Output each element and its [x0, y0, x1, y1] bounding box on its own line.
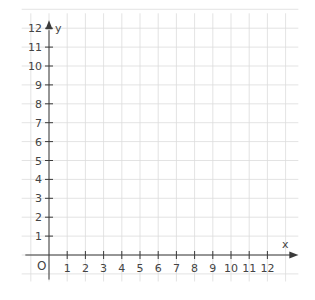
y-tick-label: 2: [35, 211, 42, 224]
x-tick-label: 9: [209, 262, 216, 275]
x-tick-label: 5: [137, 262, 144, 275]
y-tick-label: 9: [35, 79, 42, 92]
y-tick-label: 1: [35, 230, 42, 243]
y-tick-label: 5: [35, 155, 42, 168]
x-tick-label: 11: [242, 262, 256, 275]
y-tick-label: 11: [28, 41, 42, 54]
y-tick-label: 4: [35, 173, 42, 186]
y-tick-label: 6: [35, 136, 42, 149]
y-tick-label: 10: [28, 60, 42, 73]
tick-marks: [45, 28, 267, 259]
x-tick-label: 2: [82, 262, 89, 275]
x-axis-label: x: [282, 238, 289, 251]
y-axis-label: y: [55, 22, 62, 35]
x-tick-label: 8: [191, 262, 198, 275]
x-tick-label: 7: [173, 262, 180, 275]
coordinate-grid-chart: 123456789101112123456789101112 x y O: [0, 0, 315, 300]
y-tick-label: 8: [35, 98, 42, 111]
origin-label: O: [37, 259, 46, 273]
y-tick-label: 3: [35, 192, 42, 205]
x-tick-label: 4: [118, 262, 125, 275]
x-tick-label: 6: [155, 262, 162, 275]
x-tick-label: 1: [64, 262, 71, 275]
x-tick-label: 10: [224, 262, 238, 275]
x-tick-label: 12: [260, 262, 274, 275]
x-axis-arrow-icon: [289, 252, 298, 259]
x-tick-label: 3: [100, 262, 107, 275]
y-tick-label: 12: [28, 22, 42, 35]
grid-lines: [22, 9, 299, 281]
tick-labels: 123456789101112123456789101112: [28, 22, 274, 275]
axes: [25, 20, 298, 279]
y-tick-label: 7: [35, 117, 42, 130]
